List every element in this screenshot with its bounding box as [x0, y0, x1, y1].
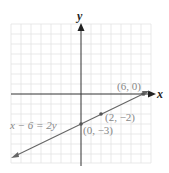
point-2-neg2: [99, 112, 103, 116]
x-axis-label: x: [156, 87, 163, 101]
graph: x y (6, 0) (2, −2) (0, −3) x − 6 = 2y: [0, 0, 169, 173]
line-arrow-left-icon: [11, 152, 19, 158]
equation-label: x − 6 = 2y: [9, 119, 57, 131]
x-axis-arrow-icon: [148, 91, 156, 98]
label-0-neg3: (0, −3): [83, 124, 113, 137]
label-2-neg2: (2, −2): [105, 111, 135, 124]
point-6-0: [141, 92, 145, 96]
label-6-0: (6, 0): [117, 80, 141, 93]
y-axis-label: y: [75, 9, 83, 23]
